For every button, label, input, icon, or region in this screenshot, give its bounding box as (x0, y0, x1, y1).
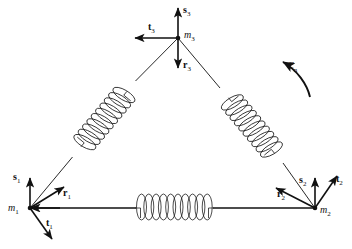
spring-coils (218, 89, 286, 163)
vector-label-t2-sub: 2 (339, 179, 343, 187)
vector-label-r1: r1 (63, 188, 71, 198)
vector-label-r3: r3 (183, 60, 191, 70)
mass-label-m1-sub: 1 (15, 208, 19, 216)
vector-label-s1: s1 (13, 172, 20, 182)
vector-label-s3-sub: 3 (187, 10, 191, 18)
rotation-label-cn: Cn (287, 61, 297, 71)
vector-label-r2-sub: 2 (281, 194, 285, 202)
diagram-canvas (0, 0, 352, 249)
rotation-label-cn-text: C (287, 60, 294, 71)
spring-m3-m2 (218, 89, 286, 163)
vectors-m1 (28, 178, 64, 239)
mass-label-m2-sub: 2 (327, 210, 331, 218)
spring-mass-triangle-diagram: m1 m2 m3 s1 r1 t1 s2 r2 t2 s3 t3 r3 Cn (0, 0, 352, 249)
vector-label-r2: r2 (277, 189, 285, 199)
vector-label-s1-sub: 1 (17, 177, 21, 185)
spring-coils (137, 194, 213, 220)
mass-label-m3: m3 (184, 30, 195, 40)
member-m1-m3-upper (136, 38, 179, 81)
vector-label-t3-sub: 3 (151, 27, 155, 35)
spring-lead-in (229, 92, 239, 102)
vector-r1 (30, 187, 64, 208)
vector-label-t3: t3 (148, 22, 155, 32)
vector-label-s2: s2 (299, 175, 306, 185)
mass-label-m3-sub: 3 (191, 35, 195, 43)
node-m2 (313, 206, 318, 211)
member-m3-m2-lower (283, 163, 315, 208)
triangle-frame (30, 38, 315, 208)
node-m3 (176, 36, 181, 41)
spring-lead-out (124, 91, 134, 101)
vector-label-s2-sub: 2 (303, 180, 307, 188)
spring-m1-m3 (70, 81, 138, 155)
vector-label-r3-sub: 3 (187, 65, 191, 73)
mass-label-m1: m1 (8, 203, 19, 213)
vector-label-t2: t2 (336, 174, 343, 184)
vector-label-t1-sub: 1 (49, 223, 53, 231)
node-m1 (28, 206, 33, 211)
vector-label-s3: s3 (183, 5, 190, 15)
spring-coils (70, 81, 138, 155)
mass-label-m2: m2 (320, 205, 331, 215)
vector-label-r1-sub: 1 (67, 193, 71, 201)
spring-m1-m2 (136, 194, 214, 220)
vector-label-t1: t1 (46, 218, 53, 228)
rotation-label-cn-sub: n (294, 66, 298, 74)
